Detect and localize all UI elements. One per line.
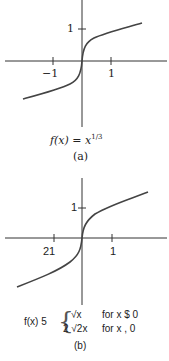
panel-b-x-tick-pos-label: 1 (110, 245, 116, 257)
panel-a-exponent: 1/3 (91, 133, 102, 141)
panel-b-case2-expr: 2 √2x (63, 323, 87, 334)
panel-b-case1-expr: √x (71, 309, 82, 320)
panel-b-graph (5, 178, 167, 305)
panel-a-label: (a) (73, 150, 88, 163)
panel-b-label: (b) (74, 340, 86, 351)
panel-b-function-lhs: f(x) 5 (24, 316, 47, 327)
panel-a-y-tick-label: 1 (67, 22, 74, 35)
panel-a-function: f(x) = x (50, 134, 91, 147)
panel-b-case1-cond: for x $ 0 (102, 309, 138, 320)
panel-b-y-tick-label: 1 (71, 201, 77, 213)
panel-a-x-tick-neg-label: −1 (42, 67, 58, 80)
graphs-canvas (0, 0, 169, 361)
panel-b-case2-cond: for x , 0 (102, 323, 135, 334)
panel-a-x-tick-pos-label: 1 (108, 67, 115, 80)
panel-a-graph (5, 0, 167, 127)
panel-b-x-tick-neg-label: 21 (43, 245, 55, 257)
panel-a-caption: f(x) = x1/3 (50, 133, 103, 147)
